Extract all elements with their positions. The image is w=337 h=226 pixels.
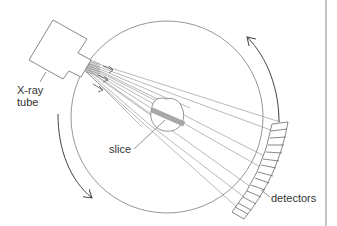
rotation-arrow-left-icon: [58, 114, 92, 198]
detectors-label: detectors: [271, 192, 317, 204]
slice-label: slice: [109, 143, 131, 155]
detector-array: [232, 122, 288, 219]
xray-tube-label-line1: X-ray: [17, 84, 44, 96]
xray-tube-leader-line: [40, 72, 46, 82]
rays-to-detector: [150, 124, 262, 200]
xray-tube-icon: [29, 20, 91, 79]
detectors-leader-line: [261, 190, 270, 197]
xray-tube-label-line2: tube: [17, 96, 38, 108]
ct-scanner-diagram: X-ray tube slice detectors: [0, 0, 337, 226]
